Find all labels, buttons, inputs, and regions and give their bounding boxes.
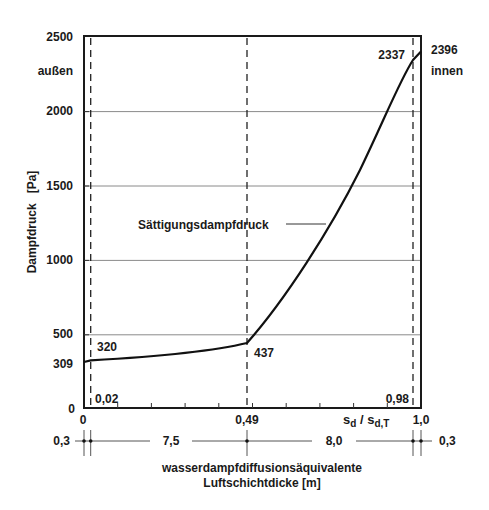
x-boundary-0-02: 0,02 — [95, 392, 119, 406]
outside-label: außen — [38, 64, 73, 78]
x-axis-title: sd / sd,T — [343, 412, 389, 429]
vapor-pressure-curve — [84, 52, 421, 363]
x-tick-0: 0 — [80, 413, 87, 427]
thickness-layer-2: 7,5 — [163, 434, 180, 448]
y-tick-2500: 2500 — [46, 30, 73, 44]
secondary-x-label-line1: wasserdampfdiffusionsäquivalente — [161, 461, 362, 475]
x-axis-s: s — [343, 412, 350, 427]
y-tick-500: 500 — [53, 327, 73, 341]
x-boundary-0-98: 0,98 — [386, 392, 410, 406]
y-tick-1000: 1000 — [46, 253, 73, 267]
value-2396: 2396 — [431, 43, 458, 57]
value-2337: 2337 — [378, 48, 405, 62]
y-tick-1500: 1500 — [46, 179, 73, 193]
thickness-layer-3: 8,0 — [326, 434, 343, 448]
thickness-layer-1: 0,3 — [53, 434, 70, 448]
secondary-x-label-line2: Luftschichtdicke [m] — [203, 476, 320, 490]
y-value-309: 309 — [53, 357, 73, 371]
x-axis-slash: / s — [356, 412, 374, 427]
inside-label: innen — [431, 64, 463, 78]
saturation-label: Sättigungsdampfdruck — [138, 218, 269, 232]
y-tick-0: 0 — [68, 402, 75, 416]
x-tick-0-49: 0,49 — [235, 413, 259, 427]
y-axis-title: Dampfdruck [Pa] — [25, 171, 39, 274]
x-tick-1-0: 1,0 — [413, 413, 430, 427]
x-axis-sub-dT: d,T — [374, 418, 389, 429]
layer-thickness-dimension — [75, 430, 432, 456]
thickness-layer-4: 0,3 — [439, 434, 456, 448]
value-320: 320 — [97, 340, 117, 354]
vapor-pressure-chart: 2500 2000 1500 1000 500 309 0 außen inne… — [0, 0, 489, 510]
y-tick-2000: 2000 — [46, 104, 73, 118]
value-437: 437 — [254, 346, 274, 360]
